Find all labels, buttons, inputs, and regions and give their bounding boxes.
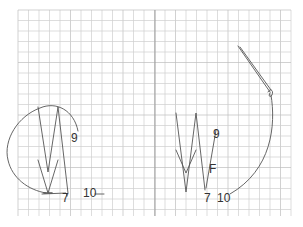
right-curve-stroke [230, 95, 273, 194]
left-panel [7, 106, 104, 196]
left-panel-label: 7 [62, 191, 69, 205]
left-panel-label: 9 [71, 131, 78, 145]
right-panel-label: 10 [217, 191, 231, 205]
right-panel-label: 7 [204, 191, 211, 205]
right-panel-label: F [209, 162, 216, 176]
right-w-stroke [176, 113, 205, 192]
graph-paper-sheet: 97109F710 [0, 0, 303, 227]
left-w-stroke [38, 107, 68, 193]
right-diagonal-stroke [238, 46, 270, 92]
diagram-canvas: 97109F710 [0, 0, 303, 227]
left-w-inner-stroke [38, 160, 58, 193]
right-panel [176, 46, 273, 194]
labels: 97109F710 [62, 127, 231, 205]
left-panel-label: 10 [83, 186, 97, 200]
right-panel-label: 9 [213, 127, 220, 141]
